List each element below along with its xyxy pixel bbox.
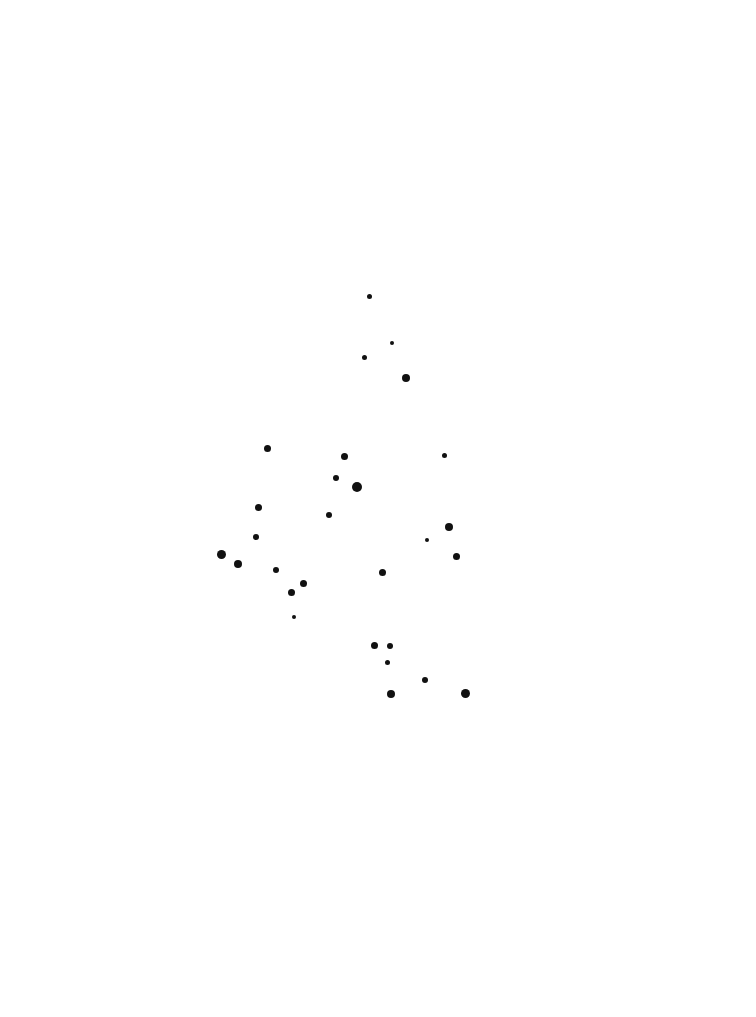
- scatter-point: [253, 534, 259, 540]
- scatter-point: [255, 504, 262, 511]
- scatter-point: [362, 355, 367, 360]
- scatter-point: [300, 580, 307, 587]
- scatter-point: [379, 569, 386, 576]
- scatter-point: [461, 689, 470, 698]
- scatter-point: [273, 567, 279, 573]
- scatter-point: [352, 482, 362, 492]
- scatter-point: [422, 677, 428, 683]
- scatter-point: [371, 642, 378, 649]
- scatter-point: [234, 560, 242, 568]
- scatter-point: [333, 475, 339, 481]
- plot-area: [0, 0, 756, 1017]
- scatter-point: [387, 690, 395, 698]
- scatter-point: [453, 553, 460, 560]
- scatter-point: [402, 374, 410, 382]
- scatter-point: [292, 615, 296, 619]
- scatter-point: [442, 453, 447, 458]
- scatter-point: [326, 512, 332, 518]
- scatter-point: [217, 550, 226, 559]
- scatter-point: [288, 589, 295, 596]
- scatter-point: [425, 538, 429, 542]
- scatter-point: [445, 523, 453, 531]
- scatter-point: [341, 453, 348, 460]
- scatter-point: [387, 643, 393, 649]
- scatter-point: [264, 445, 271, 452]
- scatter-plot-canvas: [0, 0, 756, 1017]
- scatter-point: [385, 660, 390, 665]
- scatter-point: [390, 341, 394, 345]
- scatter-point: [367, 294, 372, 299]
